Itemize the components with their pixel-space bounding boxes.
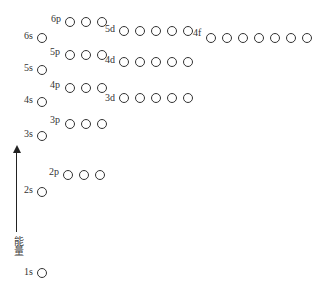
orbital-circle-icon: [81, 17, 91, 27]
orbital-label-1s: 1s: [24, 267, 33, 277]
orbital-circle-icon: [135, 93, 145, 103]
orbital-circle-icon: [183, 26, 193, 36]
orbital-circle-icon: [119, 93, 129, 103]
orbital-circle-icon: [119, 57, 129, 67]
orbital-label-5d: 5d: [105, 24, 115, 34]
orbital-label-5p: 5p: [50, 47, 60, 57]
orbital-circle-icon: [167, 93, 177, 103]
orbital-circle-icon: [286, 33, 296, 43]
orbital-circle-icon: [270, 33, 280, 43]
orbital-circle-icon: [37, 97, 47, 107]
orbital-circle-icon: [37, 187, 47, 197]
orbital-circle-icon: [151, 93, 161, 103]
orbital-label-4f: 4f: [193, 28, 201, 38]
orbital-circle-icon: [37, 65, 47, 75]
orbital-circle-icon: [65, 119, 75, 129]
orbital-circle-icon: [81, 119, 91, 129]
energy-arrow-line: [16, 152, 17, 232]
orbital-circle-icon: [167, 57, 177, 67]
orbital-circle-icon: [63, 170, 73, 180]
orbital-circle-icon: [206, 33, 216, 43]
orbital-label-4s: 4s: [24, 95, 33, 105]
orbital-label-4p: 4p: [50, 80, 60, 90]
energy-axis-label: 能量: [11, 236, 23, 256]
orbital-circle-icon: [183, 57, 193, 67]
orbital-circle-icon: [135, 26, 145, 36]
orbital-circle-icon: [302, 33, 312, 43]
orbital-circle-icon: [222, 33, 232, 43]
orbital-circle-icon: [97, 119, 107, 129]
orbital-circle-icon: [79, 170, 89, 180]
orbital-circle-icon: [81, 50, 91, 60]
orbital-circle-icon: [37, 33, 47, 43]
orbital-label-5s: 5s: [24, 63, 33, 73]
orbital-circle-icon: [151, 57, 161, 67]
orbital-circle-icon: [151, 26, 161, 36]
orbital-label-3d: 3d: [105, 93, 115, 103]
orbital-label-6s: 6s: [24, 31, 33, 41]
orbital-circle-icon: [65, 17, 75, 27]
orbital-circle-icon: [37, 131, 47, 141]
orbital-circle-icon: [167, 26, 177, 36]
orbital-circle-icon: [95, 170, 105, 180]
orbital-label-4d: 4d: [105, 55, 115, 65]
orbital-label-3s: 3s: [24, 129, 33, 139]
orbital-circle-icon: [65, 83, 75, 93]
orbital-label-6p: 6p: [51, 14, 61, 24]
orbital-label-2s: 2s: [24, 185, 33, 195]
orbital-circle-icon: [238, 33, 248, 43]
orbital-circle-icon: [37, 268, 47, 278]
orbital-circle-icon: [135, 57, 145, 67]
orbital-circle-icon: [81, 83, 91, 93]
orbital-label-2p: 2p: [49, 167, 59, 177]
orbital-circle-icon: [65, 50, 75, 60]
orbital-label-3p: 3p: [50, 115, 60, 125]
orbital-circle-icon: [254, 33, 264, 43]
orbital-circle-icon: [183, 93, 193, 103]
orbital-circle-icon: [119, 26, 129, 36]
